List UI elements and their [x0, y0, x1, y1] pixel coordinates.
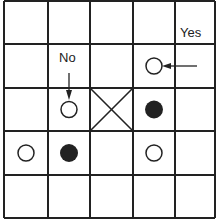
arrow-down-head-icon	[66, 90, 72, 100]
filled-circle-icon	[145, 101, 163, 119]
open-circle-icon	[146, 58, 162, 74]
yes-label: Yes	[180, 25, 201, 40]
open-circle-icon	[61, 102, 77, 118]
open-circle-icon	[146, 145, 162, 161]
open-circle-icon	[18, 145, 34, 161]
arrow-left-head-icon	[162, 63, 171, 69]
filled-circle-icon	[60, 144, 78, 162]
no-label: No	[59, 50, 76, 65]
